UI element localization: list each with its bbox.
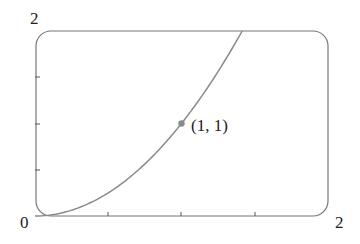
y-max-label: 2 [30,9,39,28]
chart: 2 0 2 (1, 1) [0,0,360,244]
point-marker [178,120,184,126]
x-max-label: 2 [335,213,344,232]
point-label: (1, 1) [191,116,228,135]
origin-label: 0 [20,213,29,232]
